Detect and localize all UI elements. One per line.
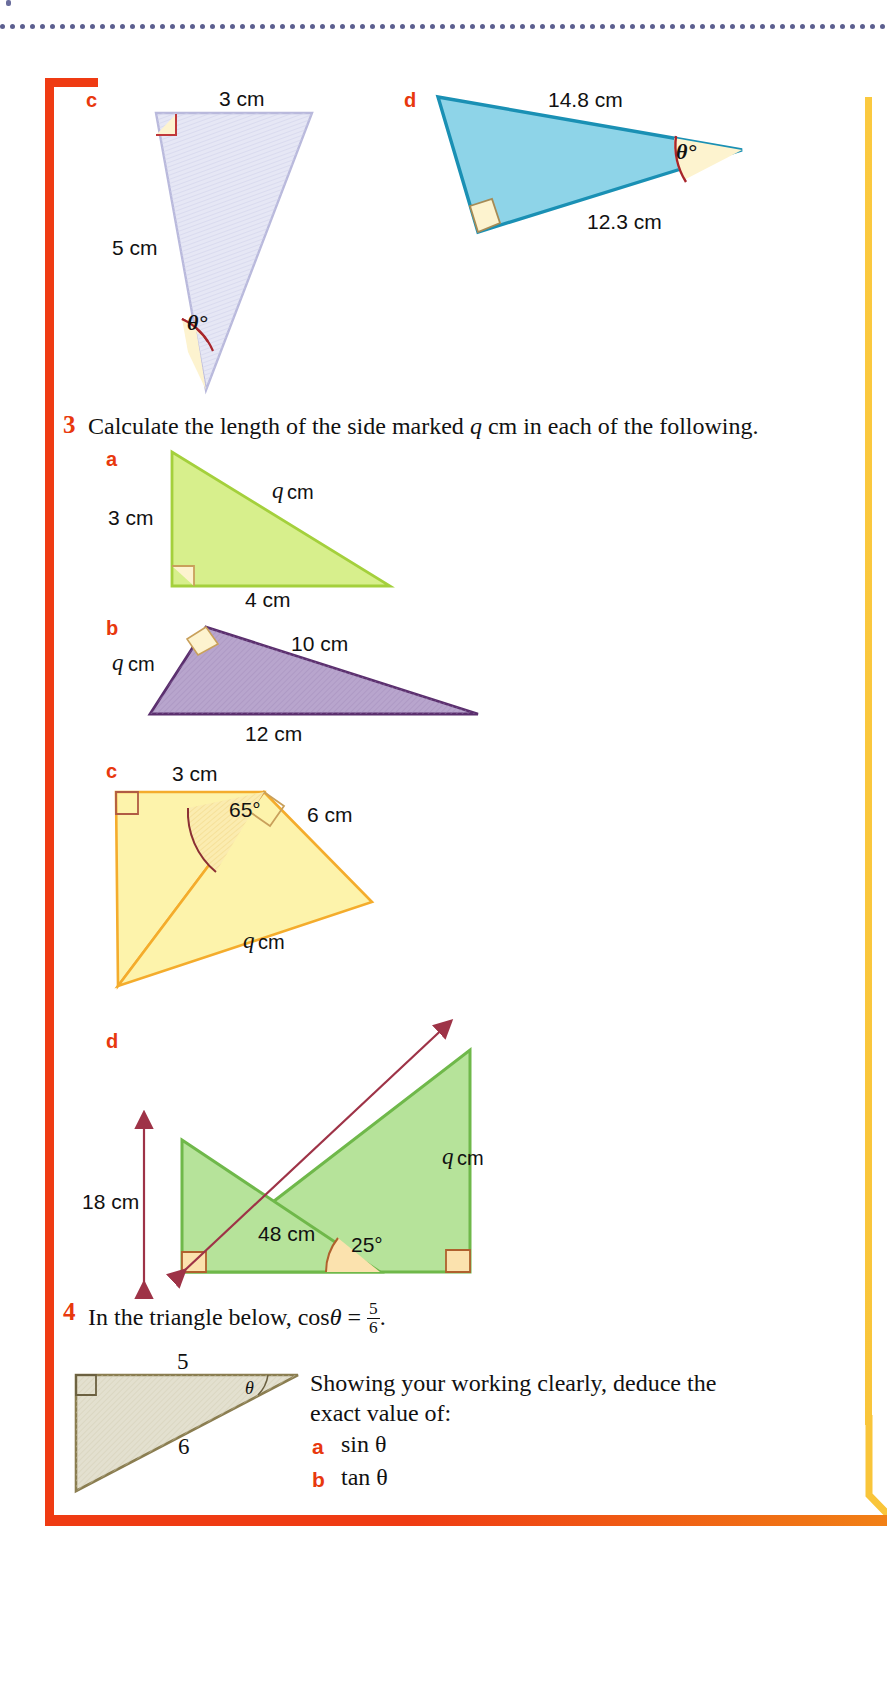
stray-dot <box>6 0 11 6</box>
label-3d-diag: 48 cm <box>258 1222 315 1246</box>
q4-theta: θ <box>330 1304 342 1330</box>
label-3b-left-unit: cm <box>128 653 155 676</box>
question-number-3: 3 <box>63 411 76 439</box>
label-3b-top: 10 cm <box>291 632 348 656</box>
part-label-3c: c <box>106 760 117 783</box>
label-q4-hyp: 6 <box>178 1434 190 1460</box>
bottom-gradient-bar <box>45 1515 887 1526</box>
label-3a-left: 3 cm <box>108 506 154 530</box>
triangle-2c <box>150 105 370 395</box>
label-2c-angle: θ° <box>187 310 207 336</box>
part-label-3d: d <box>106 1030 118 1053</box>
label-3d-angle: 25° <box>351 1233 383 1257</box>
label-3d-q-var: q <box>442 1144 454 1170</box>
q4-period: . <box>380 1304 386 1330</box>
textbook-page: c 3 cm 5 cm θ° d 14.8 cm 12.3 cm θ° 3 <box>0 0 887 1695</box>
label-2c-left: 5 cm <box>112 236 158 260</box>
part-label-4b: b <box>312 1468 325 1492</box>
red-frame-left <box>45 78 54 1524</box>
q3-text-before: Calculate the length of the side marked <box>88 413 470 439</box>
option-4b-text: tan θ <box>341 1464 388 1491</box>
part-label-4a: a <box>312 1435 324 1459</box>
label-3b-left-var: q <box>112 650 124 676</box>
label-3b-bottom: 12 cm <box>245 722 302 746</box>
triangle-q4 <box>72 1371 312 1501</box>
part-label-3a: a <box>106 448 117 471</box>
q3-text-after: cm in each of the following. <box>482 413 759 439</box>
triangle-3a <box>168 450 408 590</box>
q4-text-before: In the triangle below, cos <box>88 1304 330 1330</box>
label-3a-hyp-unit: cm <box>287 481 314 504</box>
label-3d-q-unit: cm <box>457 1147 484 1170</box>
yellow-frame-right <box>865 97 872 1425</box>
fraction-denominator: 6 <box>367 1319 380 1337</box>
yellow-frame-corner <box>836 1415 887 1530</box>
label-3c-angle: 65° <box>229 798 261 822</box>
label-2d-bottom: 12.3 cm <box>587 210 662 234</box>
label-2d-top: 14.8 cm <box>548 88 623 112</box>
q4-prompt-line2: exact value of: <box>310 1400 451 1427</box>
question-number-4: 4 <box>63 1298 76 1326</box>
part-label-2c: c <box>86 89 97 112</box>
q4-equals: = <box>342 1304 368 1330</box>
part-label-3b: b <box>106 617 118 640</box>
label-2c-top: 3 cm <box>219 87 265 111</box>
question-4-text: In the triangle below, cosθ = 56. <box>88 1300 386 1337</box>
option-4a-text: sin θ <box>341 1431 387 1458</box>
label-3c-q-unit: cm <box>258 931 285 954</box>
label-3a-hyp-var: q <box>272 478 284 504</box>
fraction-numerator: 5 <box>367 1300 380 1319</box>
label-q4-angle: θ <box>245 1378 254 1399</box>
q3-text-var: q <box>470 413 482 439</box>
label-3a-bottom: 4 cm <box>245 588 291 612</box>
label-q4-top: 5 <box>177 1349 189 1375</box>
fraction-5-6: 56 <box>367 1300 380 1337</box>
triangle-2d <box>430 92 760 262</box>
part-label-2d: d <box>404 89 416 112</box>
figure-3d <box>150 1040 490 1280</box>
q4-prompt-line1: Showing your working clearly, deduce the <box>310 1370 716 1397</box>
dotted-divider <box>0 24 887 31</box>
question-3-text: Calculate the length of the side marked … <box>88 413 758 440</box>
label-3d-vert: 18 cm <box>82 1190 139 1214</box>
label-3c-top: 3 cm <box>172 762 218 786</box>
triangle-3c <box>112 788 422 998</box>
label-2d-angle: θ° <box>676 139 696 165</box>
label-3c-q-var: q <box>243 928 255 954</box>
label-3c-right: 6 cm <box>307 803 353 827</box>
